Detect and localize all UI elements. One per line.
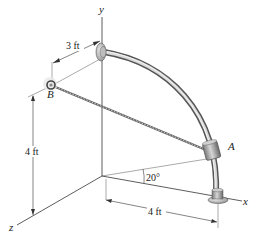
dimension-4ft-vertical: 4 ft: [24, 95, 42, 215]
curved-rod: [104, 51, 216, 197]
diagram-canvas: y x z 3 ft 4 ft 4 ft 20°: [0, 0, 256, 240]
statics-diagram: y x z 3 ft 4 ft 4 ft 20°: [0, 0, 256, 240]
point-a-label: A: [227, 140, 235, 152]
dimension-4ft-vertical-label: 4 ft: [25, 146, 39, 157]
collar-a: [202, 139, 221, 161]
dimension-4ft-horizontal-label: 4 ft: [148, 206, 162, 217]
x-axis-label: x: [242, 195, 248, 207]
z-axis-label: z: [8, 221, 14, 233]
point-b-label: B: [47, 88, 54, 100]
angle-20deg: 20°: [143, 169, 160, 183]
top-flange: [96, 43, 106, 61]
y-axis-label: y: [98, 3, 104, 15]
z-axis: [17, 176, 102, 225]
dimension-3ft-label: 3 ft: [66, 40, 80, 51]
angle-label: 20°: [146, 172, 160, 183]
dimension-4ft-horizontal: 4 ft: [106, 199, 217, 223]
dimension-3ft: 3 ft: [53, 40, 100, 63]
